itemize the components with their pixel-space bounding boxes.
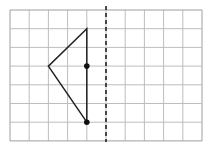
point-dot: [84, 119, 90, 125]
reflection-grid-diagram: [0, 0, 209, 154]
point-dot: [84, 63, 90, 69]
